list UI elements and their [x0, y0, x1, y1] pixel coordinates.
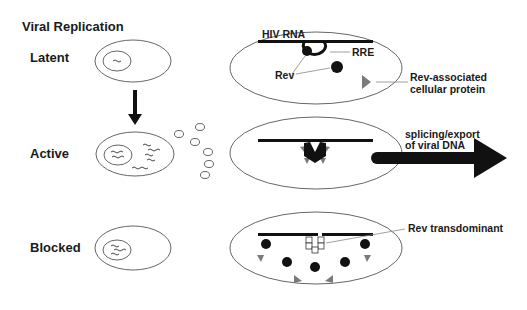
- label-rev-associated-1: Rev-associated: [410, 71, 487, 83]
- label-rev-transdominant: Rev transdominant: [408, 222, 503, 234]
- latent-detail: [230, 32, 408, 104]
- rev-bound: [302, 46, 312, 56]
- rev-molecules: [261, 239, 370, 272]
- active-cell: [96, 132, 174, 176]
- export-arrowhead-icon: [474, 138, 507, 178]
- hiv-rna-strand: [258, 40, 373, 43]
- label-splicing-2: of viral DNA: [405, 139, 465, 151]
- rev-associated-protein-icon: [362, 75, 371, 89]
- diagram-canvas: [0, 0, 527, 310]
- label-hiv-rna: HIV RNA: [262, 28, 305, 40]
- label-rre: RRE: [352, 46, 374, 58]
- blocked-detail: [230, 212, 405, 284]
- export-arrow-icon: [371, 152, 481, 164]
- label-rev-associated-2: cellular protein: [410, 83, 485, 95]
- latent-cell: [95, 40, 171, 82]
- rev-transdominant-blocks: [306, 237, 324, 253]
- rev-complex-icon: [300, 142, 330, 164]
- blocked-cell: [95, 226, 171, 270]
- rev-free: [331, 61, 343, 73]
- virion-particles: [175, 124, 214, 179]
- label-rev: Rev: [275, 69, 294, 81]
- down-arrow-icon: [128, 90, 142, 125]
